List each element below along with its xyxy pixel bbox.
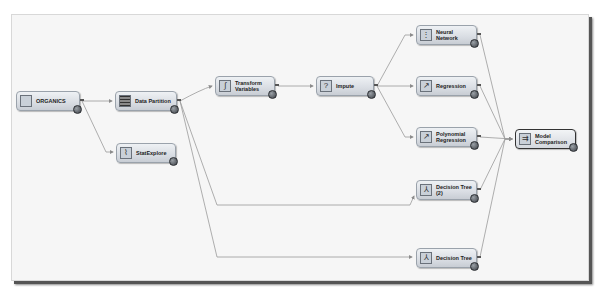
node-regression[interactable]: ↗ Regression <box>416 76 477 96</box>
node-label: Decision Tree <box>436 255 472 261</box>
status-icon <box>73 105 82 114</box>
output-port[interactable] <box>477 256 481 258</box>
node-label: Data Partition <box>135 98 171 104</box>
node-label: Neural Network <box>436 29 476 41</box>
status-icon <box>170 105 179 114</box>
decision-tree-icon: ⅄ <box>420 184 432 196</box>
partition-grid-icon <box>119 95 131 107</box>
status-icon <box>470 262 479 271</box>
status-icon <box>470 90 479 99</box>
output-port[interactable] <box>477 135 481 137</box>
node-label: StatExplore <box>136 150 167 156</box>
output-port[interactable] <box>177 99 181 101</box>
output-port[interactable] <box>477 33 481 35</box>
output-port[interactable] <box>374 84 378 86</box>
impute-icon: ? <box>320 80 332 92</box>
node-label: Model Comparison <box>535 133 571 145</box>
node-organics[interactable]: ORGANICS <box>16 91 80 111</box>
status-icon <box>268 90 277 99</box>
node-decision-tree-2[interactable]: ⅄ Decision Tree (2) <box>416 180 477 200</box>
node-label: Polynomial Regression <box>436 131 474 143</box>
node-label: Transform Variables <box>235 80 271 92</box>
output-port[interactable] <box>80 99 84 101</box>
status-icon <box>470 194 479 203</box>
status-icon <box>470 39 479 48</box>
status-icon <box>569 143 578 152</box>
node-label: ORGANICS <box>36 98 66 104</box>
status-icon <box>470 141 479 150</box>
node-label: Impute <box>336 83 354 89</box>
output-port[interactable] <box>477 188 481 190</box>
statexplore-icon: ⌇ <box>120 147 132 159</box>
status-icon <box>367 90 376 99</box>
node-data-partition[interactable]: Data Partition <box>115 91 177 111</box>
transform-icon: ∫ <box>219 80 231 92</box>
node-label: Decision Tree (2) <box>436 184 474 196</box>
node-label: Regression <box>436 83 466 89</box>
neural-network-icon: ⋮ <box>420 29 432 41</box>
decision-tree-icon: ⅄ <box>420 252 432 264</box>
output-port[interactable] <box>275 84 279 86</box>
regression-icon: ↗ <box>420 80 432 92</box>
node-model-comparison[interactable]: ⇉ Model Comparison <box>515 129 576 149</box>
output-port[interactable] <box>477 84 481 86</box>
node-decision-tree[interactable]: ⅄ Decision Tree <box>416 248 477 268</box>
data-source-icon <box>20 95 32 107</box>
node-neural-network[interactable]: ⋮ Neural Network <box>416 25 477 45</box>
node-polynomial-regression[interactable]: ↗ Polynomial Regression <box>416 127 477 147</box>
node-statexplore[interactable]: ⌇ StatExplore <box>116 143 176 163</box>
status-icon <box>169 157 178 166</box>
node-transform-variables[interactable]: ∫ Transform Variables <box>215 76 275 96</box>
regression-icon: ↗ <box>420 131 432 143</box>
diagram-canvas[interactable] <box>11 14 589 281</box>
model-comparison-icon: ⇉ <box>519 133 531 145</box>
node-impute[interactable]: ? Impute <box>316 76 374 96</box>
